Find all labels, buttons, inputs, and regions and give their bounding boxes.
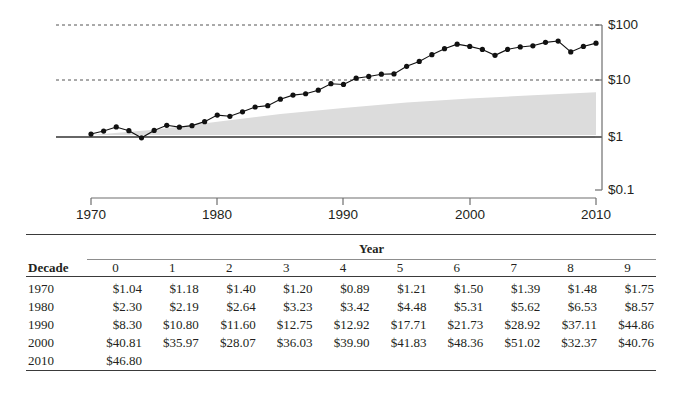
data-point-marker [240, 109, 245, 114]
table-cell-value-2: $1.40 [201, 280, 258, 298]
data-point-marker [366, 74, 371, 79]
table-rule-bottom [26, 371, 656, 376]
table-cell-value-3: $36.03 [258, 334, 315, 352]
table-cell-value-8: $37.11 [542, 316, 599, 334]
column-header-row: Decade 0 1 2 3 4 5 6 7 8 9 [26, 260, 656, 277]
table-row: 1990$8.30$10.80$11.60$12.75$12.92$17.71$… [26, 316, 656, 334]
values-table: Year Decade 0 1 2 3 4 5 6 7 8 9 1970$1.0… [26, 234, 656, 375]
table-row: 2010$46.80 [26, 352, 656, 371]
data-point-marker [265, 103, 270, 108]
data-point-marker [518, 44, 523, 49]
data-point-marker [215, 113, 220, 118]
table-cell-value-3: $12.75 [258, 316, 315, 334]
table-cell-value-6: $48.36 [428, 334, 485, 352]
table-cell-value-4: $12.92 [315, 316, 372, 334]
table-cell-value-9 [599, 352, 656, 371]
decade-column-header: Decade [26, 260, 87, 277]
y-tick-label-10: $10 [608, 72, 631, 87]
table-cell-value-5: $1.21 [371, 280, 428, 298]
data-point-marker [253, 104, 258, 109]
table-cell-value-4: $0.89 [315, 280, 372, 298]
x-tick-label-2000: 2000 [455, 207, 485, 222]
table-cell-value-8: $6.53 [542, 298, 599, 316]
data-point-marker [328, 81, 333, 86]
data-point-marker [379, 72, 384, 77]
chart-figure: $100 $10 $1 $0.1 1970 1980 1990 2000 201… [0, 0, 681, 230]
table-cell-value-2 [201, 352, 258, 371]
col-header-2: 2 [201, 260, 258, 277]
table-cell-value-5 [371, 352, 428, 371]
table-body: 1970$1.04$1.18$1.40$1.20$0.89$1.21$1.50$… [26, 280, 656, 371]
x-tick-label-1990: 1990 [328, 207, 358, 222]
table-cell-value-7: $28.92 [485, 316, 542, 334]
shaded-band-area [91, 92, 596, 135]
data-point-marker [593, 41, 598, 46]
y-tick-label-100: $100 [608, 17, 638, 32]
col-header-9: 9 [599, 260, 656, 277]
data-point-marker [455, 42, 460, 47]
table-cell-value-0: $1.04 [87, 280, 144, 298]
data-point-marker [88, 131, 93, 136]
table-row: 2000$40.81$35.97$28.07$36.03$39.90$41.83… [26, 334, 656, 352]
table-cell-value-8: $1.48 [542, 280, 599, 298]
table-cell-value-3 [258, 352, 315, 371]
table-row: 1970$1.04$1.18$1.40$1.20$0.89$1.21$1.50$… [26, 280, 656, 298]
table-cell-value-6: $21.73 [428, 316, 485, 334]
data-point-marker [480, 47, 485, 52]
table-cell-value-7: $1.39 [485, 280, 542, 298]
table-cell-value-9: $40.76 [599, 334, 656, 352]
data-point-marker [152, 128, 157, 133]
table-cell-value-4 [315, 352, 372, 371]
table-cell-value-7: $5.62 [485, 298, 542, 316]
data-point-marker [467, 44, 472, 49]
table-cell-value-8: $32.37 [542, 334, 599, 352]
data-point-marker [442, 46, 447, 51]
year-group-header: Year [87, 239, 656, 260]
table-cell-value-9: $8.57 [599, 298, 656, 316]
data-point-marker [505, 47, 510, 52]
table-cell-value-7: $51.02 [485, 334, 542, 352]
table-cell-decade: 1970 [26, 280, 87, 298]
data-point-marker [278, 97, 283, 102]
table-cell-value-1: $1.18 [144, 280, 201, 298]
table-row: 1980$2.30$2.19$2.64$3.23$3.42$4.48$5.31$… [26, 298, 656, 316]
table-cell-value-2: $11.60 [201, 316, 258, 334]
table-cell-value-5: $41.83 [371, 334, 428, 352]
table-cell-value-2: $28.07 [201, 334, 258, 352]
table-cell-value-5: $17.71 [371, 316, 428, 334]
table-cell-value-2: $2.64 [201, 298, 258, 316]
table-cell-decade: 2010 [26, 352, 87, 371]
col-header-3: 3 [258, 260, 315, 277]
data-point-marker [126, 128, 131, 133]
data-point-marker [354, 76, 359, 81]
x-tick-label-1980: 1980 [202, 207, 232, 222]
table-cell-value-1: $2.19 [144, 298, 201, 316]
y-tick-label-1: $1 [608, 129, 623, 144]
data-point-marker [303, 91, 308, 96]
col-header-1: 1 [144, 260, 201, 277]
table-cell-value-9: $1.75 [599, 280, 656, 298]
data-point-marker [202, 119, 207, 124]
data-point-marker [581, 44, 586, 49]
data-point-marker [227, 114, 232, 119]
table-cell-value-4: $3.42 [315, 298, 372, 316]
table-cell-value-0: $40.81 [87, 334, 144, 352]
data-point-marker [101, 128, 106, 133]
col-header-8: 8 [542, 260, 599, 277]
table-cell-value-4: $39.90 [315, 334, 372, 352]
data-point-marker [492, 53, 497, 58]
table-cell-value-3: $3.23 [258, 298, 315, 316]
x-tick-label-1970: 1970 [76, 207, 106, 222]
col-header-6: 6 [428, 260, 485, 277]
data-point-marker [189, 123, 194, 128]
data-point-marker [568, 49, 573, 54]
col-header-5: 5 [371, 260, 428, 277]
data-point-marker [429, 52, 434, 57]
table-cell-value-6 [428, 352, 485, 371]
data-point-marker [341, 82, 346, 87]
data-point-marker [530, 43, 535, 48]
col-header-4: 4 [315, 260, 372, 277]
data-point-marker [316, 88, 321, 93]
table-cell-value-8 [542, 352, 599, 371]
data-point-marker [164, 123, 169, 128]
